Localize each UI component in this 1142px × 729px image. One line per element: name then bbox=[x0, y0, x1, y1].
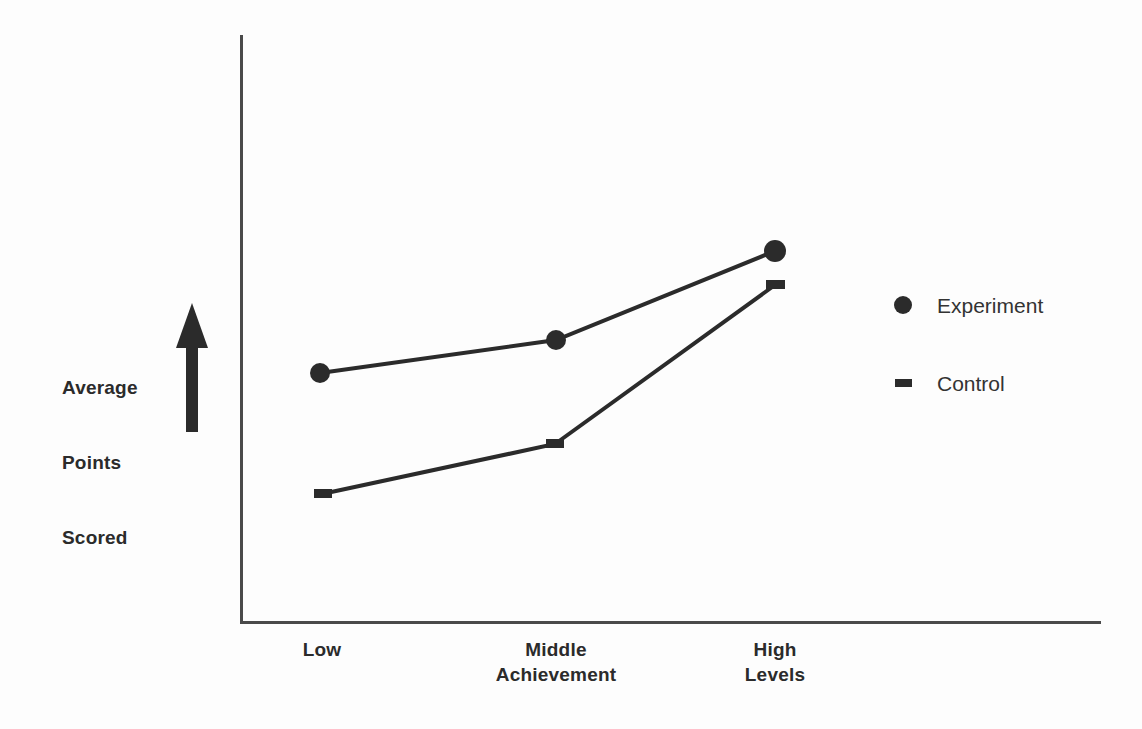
data-point-control-low bbox=[314, 489, 332, 498]
x-tick-label-high: High bbox=[715, 637, 835, 662]
x-tick-label-middle: Middle bbox=[496, 637, 616, 662]
y-axis-title: Average Points Scored bbox=[62, 325, 182, 600]
data-point-experiment-low bbox=[310, 363, 330, 383]
series-experiment bbox=[310, 240, 786, 383]
legend-label-experiment: Experiment bbox=[937, 294, 1043, 318]
y-axis-title-line-1: Average bbox=[62, 375, 182, 400]
data-point-experiment-middle bbox=[546, 330, 566, 350]
legend-marker-control bbox=[895, 379, 912, 387]
x-axis-title-line-1: Achievement bbox=[481, 662, 631, 687]
data-point-control-high bbox=[766, 280, 785, 289]
y-axis-title-line-2: Points bbox=[62, 450, 182, 475]
legend-label-control: Control bbox=[937, 372, 1005, 396]
y-axis-title-line-3: Scored bbox=[62, 525, 182, 550]
x-tick-label-low: Low bbox=[262, 637, 382, 662]
series-control-line bbox=[322, 285, 775, 494]
series-experiment-line bbox=[320, 251, 775, 373]
legend-marker-experiment bbox=[894, 296, 912, 314]
data-point-experiment-high bbox=[764, 240, 786, 262]
chart-figure: Average Points Scored Low Middle High Ac… bbox=[0, 0, 1142, 729]
data-point-control-middle bbox=[546, 439, 564, 448]
x-axis-title-line-2: Levels bbox=[715, 662, 835, 687]
series-control bbox=[314, 280, 785, 498]
